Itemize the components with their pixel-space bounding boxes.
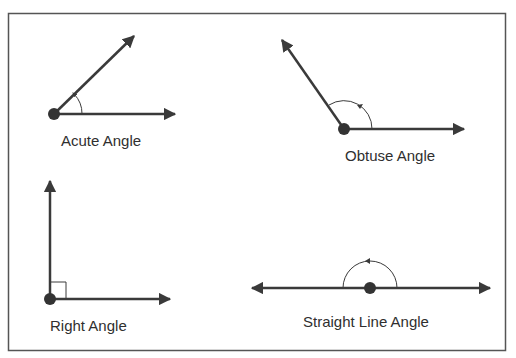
- straight-angle-label: Straight Line Angle: [303, 313, 429, 330]
- straight-vertex-dot: [364, 282, 376, 294]
- obtuse-angle-label: Obtuse Angle: [345, 147, 435, 164]
- angles-diagram: Acute Angle Obtuse Angle Right Angle Str…: [0, 0, 516, 358]
- acute-vertex-dot: [48, 108, 60, 120]
- right-angle-label: Right Angle: [50, 317, 127, 334]
- obtuse-vertex-dot: [338, 123, 350, 135]
- acute-angle-label: Acute Angle: [61, 132, 141, 149]
- right-vertex-dot: [44, 293, 56, 305]
